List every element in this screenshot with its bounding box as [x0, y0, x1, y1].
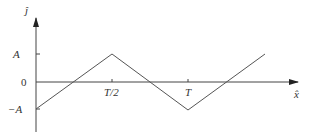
x-tick-label-T: T — [185, 86, 192, 98]
y-tick-label-A: A — [12, 48, 20, 60]
triangle-wave-chart: ĵ x̂ A 0 −A T/2 T — [0, 0, 313, 137]
y-tick-label-negA: −A — [8, 103, 22, 115]
y-tick-label-zero: 0 — [21, 76, 27, 88]
y-axis-label: ĵ — [23, 4, 29, 16]
x-tick-label-half-T: T/2 — [104, 86, 119, 98]
x-axis-label: x̂ — [293, 88, 299, 100]
